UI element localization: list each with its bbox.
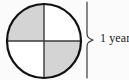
quartered-circle-diagram: 1 year	[0, 0, 129, 80]
circle-graphic	[0, 0, 90, 80]
duration-label: 1 year	[100, 32, 129, 45]
brace-path	[87, 2, 93, 78]
curly-brace-icon	[82, 0, 100, 80]
